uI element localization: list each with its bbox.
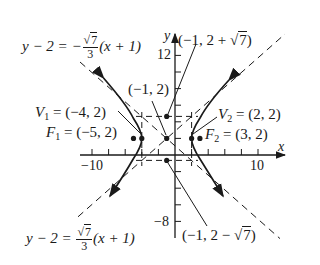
vertex-1-label: V1 = (−4, 2): [35, 105, 106, 122]
y-axis-label: y: [164, 29, 170, 43]
asymptote-lower-equation: y − 2 = √73(x + 1): [26, 226, 135, 252]
eq-lhs: y − 2 = −: [22, 38, 82, 54]
focus-1-label: F1 = (−5, 2): [46, 125, 117, 142]
focus-1-dot: [131, 136, 136, 141]
leader-lines: [118, 44, 217, 226]
vertex-2-label: V2 = (2, 2): [218, 107, 281, 124]
center-dot: [164, 136, 169, 141]
y-axis: [175, 34, 181, 238]
x-axis-label: x: [278, 140, 284, 154]
eq-lhs: y − 2 =: [26, 230, 75, 246]
conjugate-top-label: (−1, 2 + √7): [178, 33, 252, 48]
asymptote-upper-equation: y − 2 = −√73(x + 1): [22, 34, 141, 60]
focus-2-label: F2 = (3, 2): [205, 127, 268, 144]
vertex-2-dot: [189, 136, 194, 141]
conjugate-bottom-dot: [164, 158, 169, 163]
focus-2-dot: [197, 136, 202, 141]
x-tick-neg10: −10: [81, 159, 103, 173]
conjugate-top-dot: [164, 114, 169, 119]
vertex-1-dot: [139, 136, 144, 141]
eq-fraction: √73: [83, 34, 99, 60]
y-tick-neg8: −8: [154, 215, 169, 229]
eq-fraction: √73: [76, 226, 92, 252]
eq-rhs: (x + 1): [99, 38, 141, 54]
conjugate-bottom-label: (−1, 2 − √7): [182, 228, 256, 243]
x-tick-10: 10: [250, 159, 264, 173]
eq-rhs: (x + 1): [93, 230, 135, 246]
center-label: (−1, 2): [128, 82, 169, 97]
y-tick-12: 12: [157, 48, 171, 62]
